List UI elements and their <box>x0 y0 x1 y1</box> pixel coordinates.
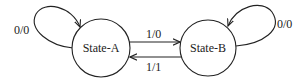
transition-label-b-to-a: 1/1 <box>146 60 161 74</box>
transition-label-b-to-b: 0/0 <box>277 17 292 31</box>
state-b-label: State-B <box>190 41 226 55</box>
state-a: State-A <box>72 19 130 77</box>
state-a-label: State-A <box>83 41 120 55</box>
state-diagram: 0/0 1/0 1/1 0/0 State-A State-B <box>0 0 305 83</box>
transition-label-a-to-b: 1/0 <box>146 27 161 41</box>
state-b: State-B <box>180 20 236 76</box>
transition-label-a-to-a: 0/0 <box>14 23 29 37</box>
